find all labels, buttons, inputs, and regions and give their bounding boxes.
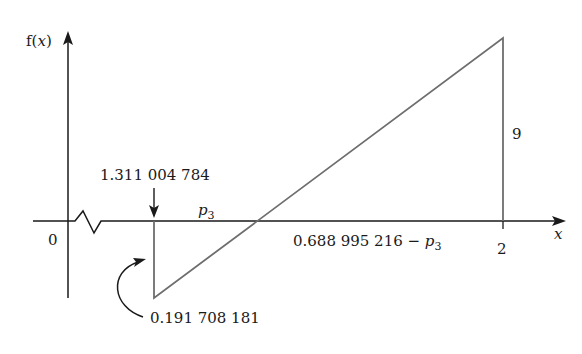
right-segment-label: 0.688 995 216 − p3 (293, 232, 441, 253)
bottom-value-label: 0.191 708 181 (150, 309, 260, 327)
x-tick-label-2: 2 (497, 240, 507, 258)
x-axis-label: x (554, 225, 563, 243)
left-point-label: 1.311 004 784 (100, 166, 210, 184)
function-diagram: f(x) 0 1.311 004 784 p3 0.688 995 216 − … (0, 0, 582, 354)
p3-label: p3 (198, 201, 215, 222)
x-axis (33, 211, 558, 233)
origin-label: 0 (48, 231, 58, 249)
height-label: 9 (512, 125, 522, 143)
y-axis-label: f(x) (26, 32, 52, 50)
curved-arrow-icon (118, 262, 143, 317)
